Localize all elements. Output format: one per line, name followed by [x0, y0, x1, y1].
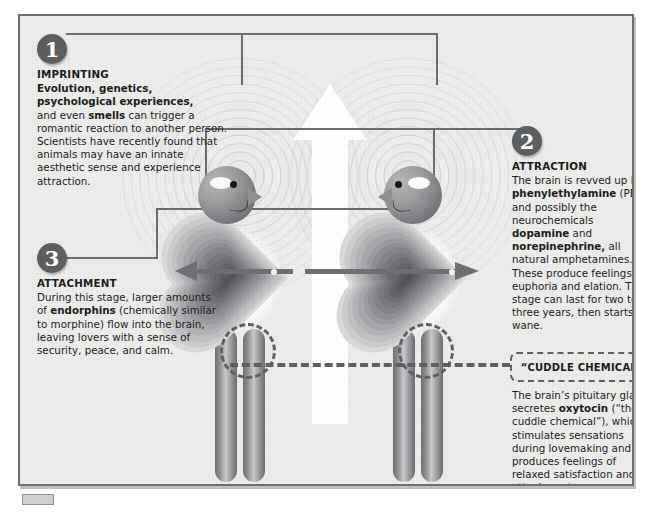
- stage-2-heading: ATTRACTION: [512, 160, 634, 173]
- stage-text-attachment: ATTACHMENT During this stage, larger amo…: [37, 277, 217, 357]
- heart-ring: [402, 276, 414, 280]
- arrow-right-shaft: [305, 269, 457, 274]
- arrow-left-shaft: [193, 269, 293, 274]
- cuddle-chemical-text: The brain’s pituitary gland secretes oxy…: [512, 389, 634, 486]
- connector-3-riser: [156, 208, 158, 259]
- up-arrow-head: [293, 84, 367, 140]
- stage-1-heading: IMPRINTING: [37, 68, 233, 81]
- head-right-nose-icon: [378, 188, 392, 206]
- stage-3-body: During this stage, larger amounts of end…: [37, 291, 216, 356]
- stage-1-body: Evolution, genetics,psychological experi…: [37, 82, 227, 186]
- connector-1-drop-left: [241, 33, 243, 85]
- cuddle-chemical-body: The brain’s pituitary gland secretes oxy…: [512, 389, 634, 486]
- connector-1-drop-right: [436, 33, 438, 85]
- head-left-nose-icon: [248, 188, 262, 206]
- stage-2-body: The brain is revved up by phenylethylami…: [512, 174, 634, 331]
- head-right-pupil-icon: [395, 181, 402, 188]
- heart-ring: [224, 276, 236, 280]
- cuddle-chemical-label: “CUDDLE CHEMICAL”: [521, 362, 634, 373]
- heart-right-icon: [350, 232, 466, 336]
- corner-tab: [22, 494, 54, 505]
- oxytocin-marker-left-icon: [220, 323, 276, 379]
- stage-badge-1[interactable]: 1: [37, 34, 67, 64]
- head-right-eye-icon: [408, 177, 430, 189]
- stage-badge-2[interactable]: 2: [512, 126, 542, 156]
- person-right-head: [376, 166, 442, 228]
- cuddle-chemical-callout: “CUDDLE CHEMICAL”: [510, 352, 634, 382]
- arrow-right-nock: [449, 269, 455, 275]
- head-right-skull: [384, 166, 442, 224]
- connector-1-horizontal: [66, 33, 438, 35]
- stage-3-heading: ATTACHMENT: [37, 277, 217, 290]
- stage-text-attraction: ATTRACTION The brain is revved up by phe…: [512, 160, 634, 333]
- stage-text-imprinting: IMPRINTING Evolution, genetics,psycholog…: [37, 68, 233, 188]
- arrow-right-tip: [455, 262, 479, 280]
- infographic-poster: 1 2 3 IMPRINTING Evolution, genetics,psy…: [0, 0, 646, 513]
- up-arrow-shaft: [312, 136, 348, 424]
- connector-3-horizontal: [66, 257, 158, 259]
- stage-badge-3[interactable]: 3: [37, 243, 67, 273]
- poster-frame: 1 2 3 IMPRINTING Evolution, genetics,psy…: [18, 14, 634, 486]
- oxytocin-marker-right-icon: [398, 323, 454, 379]
- connector-2-horizontal: [205, 128, 535, 130]
- arrow-left-nock: [271, 269, 277, 275]
